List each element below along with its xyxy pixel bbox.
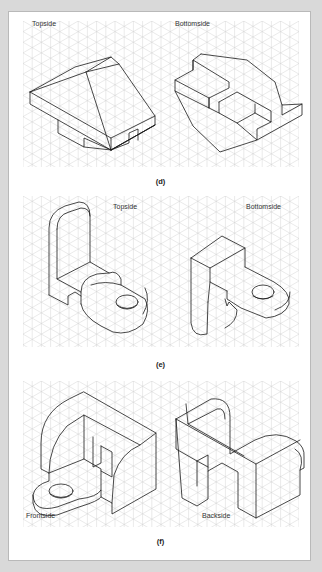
figure-card: Topside Bottomside (d) <box>8 11 311 561</box>
backside-drawing-f <box>176 399 304 518</box>
panel-e: Topside Bottomside (e) <box>9 192 312 377</box>
caption-f: (f) <box>9 537 312 546</box>
drawing-e <box>9 192 312 362</box>
bottomside-drawing-d <box>175 54 302 152</box>
frontside-drawing-f <box>33 392 156 516</box>
panel-d: Topside Bottomside (d) <box>9 12 312 192</box>
bottomside-drawing-e <box>191 236 290 335</box>
view-label-backside-f: Backside <box>202 512 230 519</box>
view-label-frontside-f: Frontside <box>26 512 55 519</box>
view-label-topside-e: Topside <box>113 203 137 210</box>
view-label-bottomside-e: Bottomside <box>246 203 281 210</box>
caption-e: (e) <box>9 360 312 369</box>
caption-d: (d) <box>9 177 312 186</box>
drawing-f <box>9 377 312 547</box>
drawing-d <box>9 12 312 182</box>
topside-drawing-e <box>49 202 148 333</box>
topside-drawing-d <box>30 57 155 150</box>
view-label-bottomside-d: Bottomside <box>175 20 210 27</box>
view-label-topside-d: Topside <box>32 20 56 27</box>
panel-f: Frontside Backside (f) <box>9 377 312 562</box>
